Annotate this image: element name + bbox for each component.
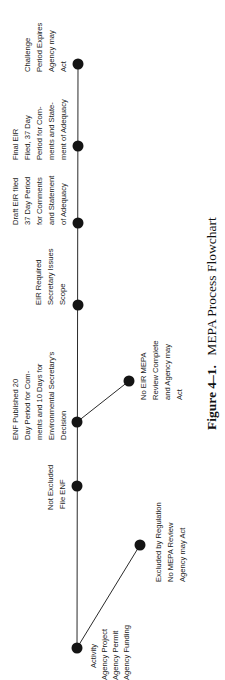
mepa-flowchart: Activity Agency Project Agency Permit Ag…	[0, 0, 225, 680]
label-no-eir: No EIR MEPA Review Complete and Agency m…	[139, 340, 184, 400]
label-line: ment of Adequacy	[59, 99, 68, 160]
caption-title: MEPA Process Flowchart	[204, 217, 219, 356]
label-line: Secretary Issues	[46, 248, 55, 305]
label-line: Act	[59, 60, 68, 72]
label-line: Final EIR	[11, 128, 20, 160]
label-line: Period for Com-	[35, 106, 44, 160]
node-enf	[72, 417, 83, 428]
label-line: Day Period for Com-	[23, 370, 32, 440]
label-line: File ENF	[58, 479, 67, 509]
label-line: Review Complete	[151, 340, 160, 400]
label-line: EIR Required	[34, 259, 43, 305]
label-draft-eir: Draft EIR filed 37 Day Period for Commen…	[11, 175, 68, 225]
label-line: for Comments	[35, 177, 44, 225]
label-line: Agency Permit	[111, 630, 120, 680]
label-line: Agency may	[47, 30, 56, 72]
node-draft-eir	[73, 218, 84, 229]
node-challenge	[73, 59, 84, 70]
label-line: Challenge	[23, 38, 32, 72]
label-line: No MEPA Review	[166, 522, 175, 582]
label-line: Decision	[59, 411, 68, 440]
label-line: Period Expires	[35, 22, 44, 72]
node-not-excluded	[72, 481, 83, 492]
label-eir-required: EIR Required Secretary Issues Scope	[34, 248, 67, 305]
label-line: ments and 10 Days for	[35, 363, 44, 440]
caption-number: Figure 4–1.	[204, 365, 219, 430]
label-line: Activity	[89, 644, 98, 668]
label-line: and Statement	[47, 175, 56, 225]
label-line: Scope	[58, 283, 67, 305]
label-challenge: Challenge Period Expires Agency may Act	[23, 22, 68, 72]
label-line: Excluded by Regulation	[154, 502, 163, 582]
node-eir-required	[73, 300, 84, 311]
label-line: Agency Funding	[122, 625, 131, 680]
node-no-eir	[124, 376, 135, 387]
label-enf: ENF Published 20 Day Period for Com- men…	[11, 351, 68, 440]
label-line: Filed, 37 Day	[23, 115, 32, 160]
label-line: ments and State-	[47, 102, 56, 160]
label-activity: Activity Agency Project Agency Permit Ag…	[89, 625, 131, 680]
node-final-eir	[73, 141, 84, 152]
label-line: Agency Project	[100, 628, 109, 680]
label-line: No EIR MEPA	[139, 352, 148, 400]
main-timeline-line	[77, 64, 78, 648]
label-line: Act	[175, 388, 184, 400]
label-line: 37 Day Period	[23, 177, 32, 225]
label-line: Agency may Act	[178, 527, 187, 582]
node-excluded	[135, 540, 146, 551]
label-line: ENF Published 20	[11, 379, 20, 440]
label-not-excluded: Not Excluded File ENF	[46, 465, 67, 510]
label-line: Environmental Secretary's	[47, 351, 56, 440]
node-activity	[72, 643, 83, 654]
label-line: and Agency may	[163, 344, 172, 400]
branch-line-no-eir	[77, 381, 129, 422]
label-line: Draft EIR filed	[11, 178, 20, 225]
label-line: Not Excluded	[46, 465, 55, 510]
label-final-eir: Final EIR Filed, 37 Day Period for Com- …	[11, 99, 68, 160]
label-line: of Adequacy	[59, 183, 68, 225]
figure-caption: Figure 4–1. MEPA Process Flowchart	[204, 217, 219, 430]
label-excluded: Excluded by Regulation No MEPA Review Ag…	[154, 502, 187, 582]
